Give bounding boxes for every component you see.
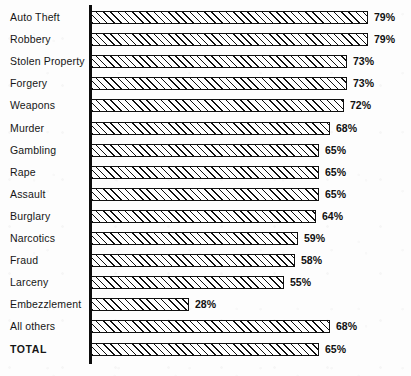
bar-value-label: 73% <box>353 77 374 90</box>
plot-area: Auto Theft79%Robbery79%Stolen Property73… <box>0 0 411 376</box>
bar-value-label: 73% <box>353 55 374 68</box>
bar <box>91 144 319 157</box>
bar <box>91 77 347 90</box>
bar-value-label: 72% <box>350 99 371 112</box>
bar-row: Rape65% <box>0 166 411 179</box>
bar <box>91 99 344 112</box>
bar-value-label: 79% <box>374 11 395 24</box>
bar-value-label: 59% <box>304 232 325 245</box>
bar-row: Auto Theft79% <box>0 11 411 24</box>
bar-row: Burglary64% <box>0 210 411 223</box>
bar-row: TOTAL65% <box>0 343 411 356</box>
bar <box>91 232 298 245</box>
bar-chart: Auto Theft79%Robbery79%Stolen Property73… <box>0 0 411 376</box>
bar-row: Fraud58% <box>0 254 411 267</box>
bar-value-label: 68% <box>336 320 357 333</box>
bar <box>91 343 319 356</box>
bar <box>91 33 368 46</box>
bar-row: Assault65% <box>0 188 411 201</box>
bar-category-label: Fraud <box>10 254 38 267</box>
bar <box>91 254 295 267</box>
bar-category-label: Burglary <box>10 210 50 223</box>
bar <box>91 122 330 135</box>
bar <box>91 210 316 223</box>
bar <box>91 11 368 24</box>
bar <box>91 166 319 179</box>
bar-category-label: Embezzlement <box>10 298 81 311</box>
bar-row: Forgery73% <box>0 77 411 90</box>
bar-category-label: Assault <box>10 188 45 201</box>
bar-category-label: All others <box>10 320 55 333</box>
bar-category-label: Larceny <box>10 276 48 289</box>
bar-category-label: Narcotics <box>10 232 55 245</box>
bar-row: Murder68% <box>0 122 411 135</box>
bar-row: Narcotics59% <box>0 232 411 245</box>
bar-row: Stolen Property73% <box>0 55 411 68</box>
bar-value-label: 64% <box>322 210 343 223</box>
bar-value-label: 65% <box>325 188 346 201</box>
bar-row: Robbery79% <box>0 33 411 46</box>
bar-row: Embezzlement28% <box>0 298 411 311</box>
bar-category-label: Stolen Property <box>10 55 85 68</box>
bar-value-label: 79% <box>374 33 395 46</box>
bar-value-label: 28% <box>195 298 216 311</box>
bar-value-label: 55% <box>290 276 311 289</box>
bar-category-label: TOTAL <box>10 343 47 356</box>
bar-category-label: Murder <box>10 122 44 135</box>
bar-row: Gambling65% <box>0 144 411 157</box>
bar-category-label: Rape <box>10 166 36 179</box>
bar-category-label: Auto Theft <box>10 11 60 24</box>
bar-category-label: Weapons <box>10 99 55 112</box>
bar-row: All others68% <box>0 320 411 333</box>
bar-row: Larceny55% <box>0 276 411 289</box>
bar <box>91 320 330 333</box>
bar-value-label: 65% <box>325 166 346 179</box>
bar <box>91 188 319 201</box>
bar <box>91 298 189 311</box>
bar <box>91 276 284 289</box>
bar-category-label: Gambling <box>10 144 56 157</box>
bar-category-label: Forgery <box>10 77 47 90</box>
bar-value-label: 68% <box>336 122 357 135</box>
bar-category-label: Robbery <box>10 33 51 46</box>
bar-row: Weapons72% <box>0 99 411 112</box>
bar <box>91 55 347 68</box>
bar-value-label: 65% <box>325 144 346 157</box>
bar-value-label: 58% <box>301 254 322 267</box>
bar-value-label: 65% <box>325 343 346 356</box>
